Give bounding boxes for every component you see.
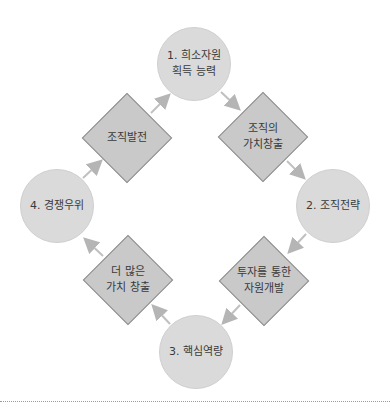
node-label: 3. 핵심역량 — [169, 344, 223, 360]
node-label: 투자를 통한 자원개발 — [237, 265, 291, 297]
node-org-value-creation: 조직의 가치창출 — [217, 91, 309, 183]
node-label: 4. 경쟁우위 — [30, 198, 84, 214]
node-more-value-creation: 더 많은 가치 창출 — [82, 234, 174, 326]
node-org-development: 조직발전 — [81, 92, 173, 184]
node-label: 더 많은 가치 창출 — [106, 264, 150, 296]
node-label: 조직발전 — [107, 130, 147, 146]
node-label: 조직의 가치창출 — [243, 121, 283, 153]
node-resource-development: 투자를 통한 자원개발 — [218, 235, 310, 327]
node-label: 2. 조직전략 — [306, 198, 360, 214]
node-scarce-resources: 1. 희소자원 획득 능력 — [157, 27, 231, 101]
node-label: 1. 희소자원 획득 능력 — [167, 48, 221, 80]
dotted-divider — [0, 401, 390, 402]
